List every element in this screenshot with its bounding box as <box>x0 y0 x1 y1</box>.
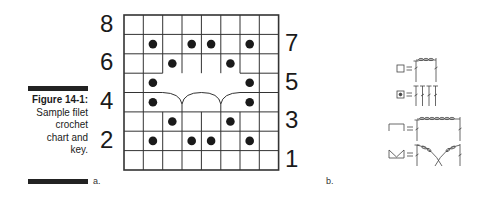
key-lacet <box>389 144 462 166</box>
key-open-mesh <box>397 58 438 82</box>
lacet-arcs <box>163 93 240 105</box>
open-mesh-icon <box>397 65 404 72</box>
filet-chart <box>0 0 498 199</box>
chart-key <box>389 58 462 166</box>
lacet-icon <box>389 150 404 158</box>
key-filled-block <box>397 86 438 106</box>
key-bar <box>389 117 462 141</box>
bar-icon <box>389 124 404 131</box>
